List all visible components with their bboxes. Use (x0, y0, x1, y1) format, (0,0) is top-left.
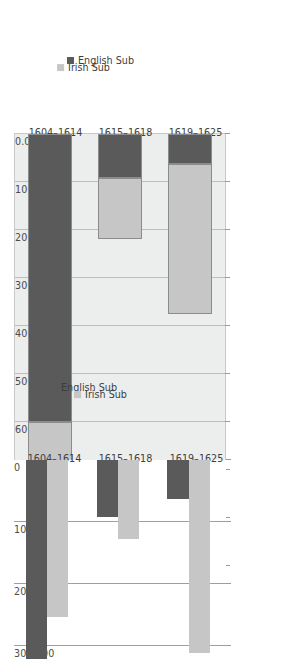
bar (189, 460, 210, 653)
bar-segment (168, 134, 211, 164)
bar (97, 460, 118, 517)
bar (118, 460, 139, 539)
legend-item: Irish Sub (74, 389, 127, 400)
axis-tick (225, 181, 230, 182)
clustered-chart-legend: English SubIrish Sub (78, 354, 106, 421)
legend-label: English Sub (78, 55, 134, 66)
legend-item: English Sub (67, 55, 134, 66)
axis-tick (225, 277, 230, 278)
legend-label: Irish Sub (85, 389, 127, 400)
bar (47, 460, 68, 617)
axis-tick (225, 325, 230, 326)
clustered-chart-body: 700,000600,000500,000400,000300,000200,0… (0, 332, 272, 659)
bar-segment (98, 134, 141, 178)
value-axis-label: 0 (11, 460, 17, 478)
clustered-chart-plot-area: 700,000600,000500,000400,000300,000200,0… (14, 460, 226, 659)
bar-segment (98, 178, 141, 239)
axis-tick (226, 583, 231, 584)
irish-sub-swatch-icon (74, 391, 81, 398)
axis-tick (226, 521, 231, 522)
axis-tick (225, 229, 230, 230)
axis-tick (225, 133, 230, 134)
bar (26, 460, 47, 659)
axis-tick (226, 645, 231, 646)
english-sub-swatch-icon (67, 57, 74, 64)
english-sub-swatch-icon (50, 384, 57, 391)
clustered-subsidy-chart: 700,000600,000500,000400,000300,000200,0… (0, 332, 291, 659)
axis-tick (226, 459, 231, 460)
stacked-chart-legend: Irish SubEnglish Sub (78, 27, 106, 94)
bar-segment (168, 164, 211, 314)
irish-sub-swatch-icon (57, 64, 64, 71)
bar (167, 460, 188, 499)
scanned-figure-page: 900,000.00800,000.00700,000.00600,000.00… (0, 0, 291, 659)
value-axis-label: 0.00 (4, 134, 26, 152)
stacked-subsidy-chart: 900,000.00800,000.00700,000.00600,000.00… (0, 5, 291, 335)
